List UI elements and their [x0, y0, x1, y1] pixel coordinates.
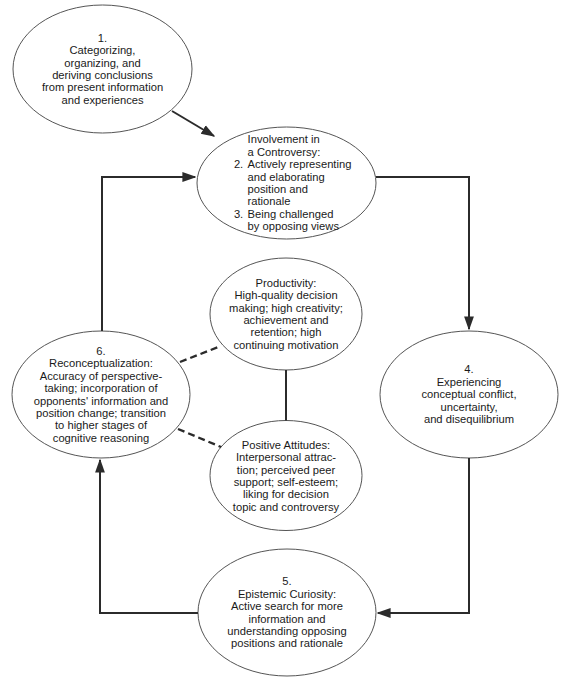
node-productivity: Productivity: High-quality decision maki…: [210, 258, 362, 370]
node-step-2-3: Involvement in a Controversy: 2.Actively…: [197, 127, 376, 239]
arrow-6-to-2: [102, 177, 195, 331]
node-step-1-text: 1. Categorizing, organizing, and derivin…: [42, 32, 163, 106]
item-2-number: 2.: [230, 158, 248, 208]
node-step-6: 6. Reconceptualization: Accuracy of pers…: [12, 331, 190, 458]
item-3-number: 3.: [230, 208, 248, 233]
node-step-4: 4. Experiencing conceptual conflict, unc…: [380, 331, 558, 458]
item-3-text: Being challenged by opposing views: [248, 208, 339, 233]
arrow-5-to-6: [100, 460, 198, 613]
item-2-text: Actively representing and elaborating po…: [248, 158, 352, 208]
node-productivity-text: Productivity: High-quality decision maki…: [229, 277, 343, 351]
node-step-2-3-title: Involvement in a Controversy:: [248, 133, 321, 158]
node-positive-attitudes: Positive Attitudes: Interpersonal attrac…: [210, 421, 362, 531]
node-step-6-text: 6. Reconceptualization: Accuracy of pers…: [34, 345, 169, 444]
node-step-5-text: 5. Epistemic Curiosity: Active search fo…: [227, 575, 346, 649]
node-step-1: 1. Categorizing, organizing, and derivin…: [13, 5, 192, 133]
arrow-4-to-5: [378, 458, 469, 613]
node-step-5: 5. Epistemic Curiosity: Active search fo…: [198, 549, 376, 676]
arrow-2-to-4: [376, 177, 469, 329]
node-step-4-text: 4. Experiencing conceptual conflict, unc…: [421, 363, 516, 425]
node-positive-attitudes-text: Positive Attitudes: Interpersonal attrac…: [233, 439, 339, 513]
